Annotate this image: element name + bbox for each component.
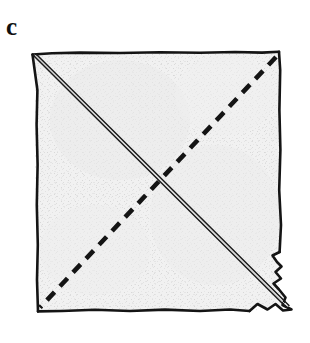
origami-diagram (0, 0, 310, 343)
paper-edge-bottom (38, 310, 250, 312)
figure-panel: c (0, 0, 310, 343)
